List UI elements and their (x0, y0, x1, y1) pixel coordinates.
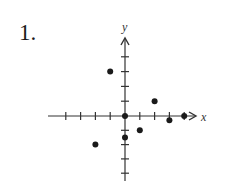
data-point (122, 134, 128, 140)
y-axis-label: y (121, 20, 128, 34)
data-point (92, 142, 98, 148)
x-axis-label: x (200, 110, 207, 124)
data-point (137, 127, 143, 133)
data-point (166, 117, 172, 123)
data-point (152, 98, 158, 104)
data-point (122, 113, 128, 119)
data-point (107, 69, 113, 75)
axes (48, 38, 196, 181)
data-point (181, 113, 187, 119)
data-points (92, 69, 187, 148)
scatter-plot: x y (0, 0, 225, 181)
